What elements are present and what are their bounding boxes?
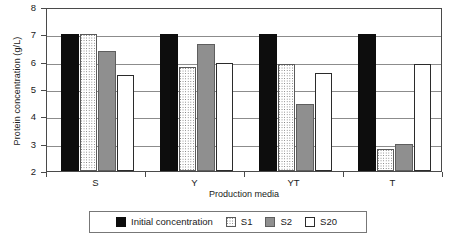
bar-Y-s2 [197,44,215,171]
bar-Y-s20 [216,63,234,171]
y-axis-tick-label: 2 [6,167,36,177]
legend-swatch-initial [116,217,126,227]
x-axis-label-Y: Y [145,177,244,188]
bars-layer [47,9,441,171]
plot-area [46,8,442,172]
bar-S-initial [61,34,79,171]
legend-swatch-s20 [305,217,315,227]
bar-S-s1 [80,34,98,171]
bar-T-initial [358,34,376,171]
legend-item-initial[interactable]: Initial concentration [116,217,213,227]
y-axis-tick-label: 8 [6,3,36,13]
y-axis-tick-label: 5 [6,85,36,95]
bar-T-s1 [377,149,395,171]
legend-label-s20: S20 [320,217,337,227]
legend-swatch-s1 [226,217,236,227]
x-axis-title: Production media [46,189,442,199]
y-axis-tick-label: 3 [6,140,36,150]
y-axis-tick-label: 6 [6,58,36,68]
bar-Y-s1 [179,67,197,171]
legend-swatch-s2 [265,217,275,227]
x-axis-label-T: T [343,177,442,188]
bar-T-s2 [395,144,413,171]
legend-label-initial: Initial concentration [131,217,213,227]
legend-item-s20[interactable]: S20 [305,217,337,227]
x-axis-tick [442,172,443,177]
bar-Y-initial [160,34,178,171]
legend-label-s1: S1 [241,217,253,227]
y-axis-tick-label: 7 [6,30,36,40]
y-axis-tick-label: 4 [6,112,36,122]
bar-YT-initial [259,34,277,171]
bar-T-s20 [414,64,432,171]
bar-YT-s20 [315,73,333,171]
legend-item-s1[interactable]: S1 [226,217,253,227]
x-axis-label-S: S [46,177,145,188]
bar-S-s20 [117,75,135,171]
chart-legend: Initial concentrationS1S2S20 [89,211,367,233]
bar-S-s2 [98,51,116,171]
bar-YT-s2 [296,104,314,171]
legend-item-s2[interactable]: S2 [265,217,292,227]
bar-chart: Protein concentration (g/L) 2345678 SYYT… [0,0,452,242]
x-axis-label-YT: YT [244,177,343,188]
bar-YT-s1 [278,64,296,171]
legend-label-s2: S2 [280,217,292,227]
